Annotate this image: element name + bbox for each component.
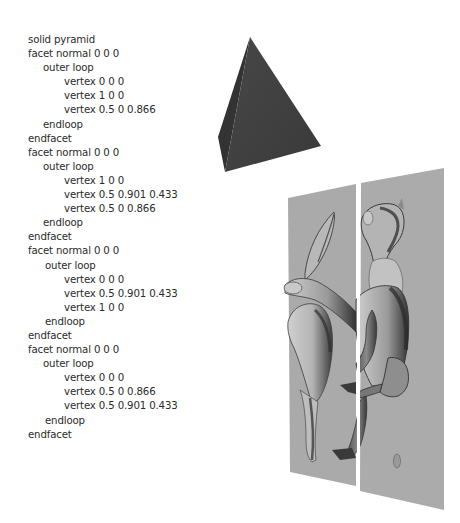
illustration-canvas <box>0 0 460 523</box>
pyramid-front-face <box>225 37 321 172</box>
pyramid-render <box>218 37 321 172</box>
horse-model-render <box>284 168 444 510</box>
